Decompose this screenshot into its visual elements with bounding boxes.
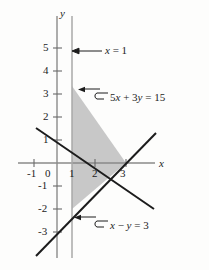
- eq-b-rel: =: [132, 219, 144, 231]
- y-tick-label-5: 5: [43, 42, 49, 53]
- y-tick-label-1: 1: [43, 134, 49, 145]
- x-tick-label-1: 1: [69, 168, 75, 179]
- eq-a-rel: =: [143, 91, 155, 103]
- eq-a-val: 15: [154, 91, 165, 103]
- x-tick-label-2: 2: [92, 168, 98, 179]
- eq-b-val: 3: [143, 219, 149, 231]
- eq-a-op: +: [120, 91, 132, 103]
- x-axis-label: x: [159, 158, 164, 169]
- annotation-x-equals-1: x = 1: [105, 45, 127, 56]
- graph-figure: x y -1 0 1 2 3 5 4 3 2 1 -1 -2 -3 x = 1 …: [0, 0, 209, 270]
- equation-a-leader: [78, 87, 108, 99]
- annotation-5x-plus-3y-equals-15: 5x + 3y = 155x + 3y = 15: [110, 92, 165, 103]
- y-axis-label: y: [60, 8, 65, 19]
- x-equals-1-leader: [72, 48, 102, 54]
- coordinate-plot: [0, 0, 209, 270]
- x-tick-label-0: 0: [45, 168, 51, 179]
- annotation-x-equals-1-val: 1: [122, 44, 128, 56]
- eq-b-op: −: [115, 219, 127, 231]
- y-tick-label-3: 3: [43, 88, 49, 99]
- y-tick-label-minus3: -3: [38, 226, 47, 237]
- x-tick-label-minus1: -1: [27, 168, 36, 179]
- y-tick-label-4: 4: [43, 65, 49, 76]
- y-tick-label-minus1: -1: [38, 180, 47, 191]
- equation-b-leader: [74, 215, 108, 227]
- y-tick-label-minus2: -2: [38, 203, 47, 214]
- y-tick-label-2: 2: [43, 111, 49, 122]
- annotation-x-equals-1-rel: =: [110, 44, 122, 56]
- x-tick-label-3: 3: [120, 168, 126, 179]
- annotation-x-minus-y-equals-3: x − y = 3: [110, 220, 149, 231]
